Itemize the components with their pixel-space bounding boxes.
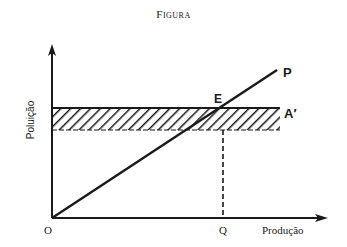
- band-label: A′: [284, 106, 297, 121]
- p-label: P: [283, 65, 292, 80]
- intersection-label: E: [214, 92, 222, 106]
- x-axis-label: Produção: [262, 224, 304, 236]
- hatched-band: [52, 108, 280, 130]
- origin-label: O: [44, 224, 52, 236]
- p-line: [52, 70, 277, 218]
- x-axis: [52, 214, 328, 222]
- y-axis-label: Poluição: [25, 100, 36, 139]
- y-axis: [48, 44, 56, 218]
- pollution-production-diagram: Poluição Produção O Q P A′ E: [0, 0, 347, 247]
- q-label: Q: [219, 224, 227, 236]
